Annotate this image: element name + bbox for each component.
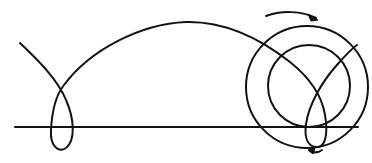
rotation-arrow-top-icon: [266, 12, 318, 21]
trochoid-curve: [20, 22, 357, 150]
diagram-canvas: [0, 0, 372, 163]
rotation-arrow-bottom-icon: [308, 148, 322, 154]
cycloid-diagram: [0, 0, 372, 163]
